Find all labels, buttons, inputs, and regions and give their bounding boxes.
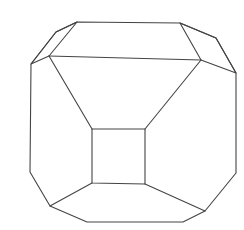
top-right-corner-face <box>180 23 236 73</box>
outer-outline <box>30 22 236 222</box>
edge-tl-to-square <box>49 56 92 129</box>
edge-square-to-bl <box>50 183 92 206</box>
top-edge-inner <box>49 56 201 60</box>
edge-square-to-br <box>145 184 205 211</box>
polyhedron-drawing <box>0 0 244 230</box>
edge-tr-to-square <box>145 60 201 129</box>
top-left-corner-face <box>31 22 77 64</box>
front-square-face <box>92 129 145 184</box>
